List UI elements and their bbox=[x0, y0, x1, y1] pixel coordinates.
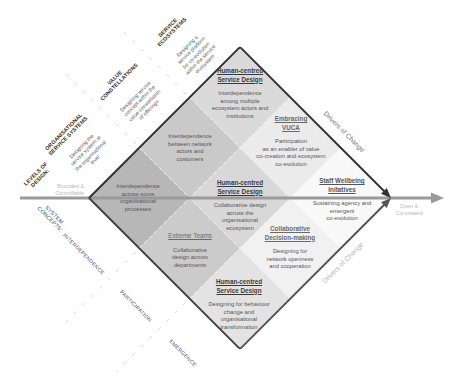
cell-body-line: ecosystem actors and bbox=[212, 105, 268, 113]
cell-body-line: among multiple bbox=[212, 98, 268, 106]
cell-body-line: Collaborative bbox=[168, 247, 212, 255]
cell-body-line: co-evolution bbox=[256, 161, 325, 169]
cell-body-line: Participation bbox=[256, 138, 325, 146]
cell-heading-line: Service Design bbox=[208, 287, 269, 296]
cell-body-line: Interdependence bbox=[168, 133, 212, 141]
cell-lower-right-text: Collaborative Decision-making Designing … bbox=[265, 225, 315, 271]
cell-upper-right-text: Embracing VUCA Participation as an enabl… bbox=[256, 115, 325, 168]
cell-heading: Human-centred Service Design bbox=[212, 67, 268, 84]
cell-body-line: between network bbox=[168, 141, 212, 149]
cell-body-line: change and bbox=[208, 309, 269, 317]
cell-body-line: Collaborative design bbox=[214, 202, 267, 210]
cell-heading-line: Extreme Teams bbox=[168, 232, 212, 241]
cell-body-line: Interdependence bbox=[116, 183, 160, 191]
cell-right-text: Staff Wellbeing Initatives Sustaining ag… bbox=[313, 177, 372, 223]
cell-heading: Staff Wellbeing Initatives bbox=[313, 177, 372, 194]
cell-body-line: emergent bbox=[313, 208, 372, 216]
cell-heading-line: Embracing bbox=[256, 115, 325, 124]
cell-body-line: processes bbox=[116, 206, 160, 214]
cell-heading: Extreme Teams bbox=[168, 232, 212, 241]
cell-heading-line: Human-centred bbox=[208, 278, 269, 287]
cell-body-line: organisational bbox=[208, 316, 269, 324]
cell-body-line: co-creation and ecosystem bbox=[256, 153, 325, 161]
cell-heading-line: Staff Wellbeing bbox=[313, 177, 372, 186]
cell-body-line: as an enabler of value bbox=[256, 146, 325, 154]
cell-body-line: ecosystem bbox=[214, 225, 267, 233]
cell-body-line: across some bbox=[116, 191, 160, 199]
cell-body-line: departments bbox=[168, 262, 212, 270]
cell-body-line: and cooperation bbox=[265, 263, 315, 271]
cell-body-line: design across bbox=[168, 254, 212, 262]
cell-heading: Human-centred Service Design bbox=[214, 179, 267, 196]
cell-body-line: across the bbox=[214, 210, 267, 218]
cell-heading: Human-centred Service Design bbox=[208, 278, 269, 295]
cell-heading-line: Human-centred bbox=[214, 179, 267, 188]
axis-left-label: Bounded & Controllable bbox=[55, 183, 84, 197]
cell-top-text: Human-centred Service Design Interdepend… bbox=[212, 67, 268, 120]
cell-center-text: Human-centred Service Design Collaborati… bbox=[214, 179, 267, 232]
cell-body-line: network openness bbox=[265, 256, 315, 264]
cell-heading: Embracing VUCA bbox=[256, 115, 325, 132]
cell-body-line: actors and bbox=[168, 148, 212, 156]
axis-left-label-line: Bounded & bbox=[55, 183, 84, 190]
cell-heading-line: Initatives bbox=[313, 186, 372, 195]
cell-body-line: Designing for behaviour bbox=[208, 301, 269, 309]
cell-body-line: Sustaining agency and bbox=[313, 200, 372, 208]
cell-body-line: co-evolution bbox=[313, 215, 372, 223]
cell-body-line: transformation bbox=[208, 324, 269, 332]
cell-left-text: Interdependence across some organisation… bbox=[116, 183, 160, 213]
cell-lower-left-text: Extreme Teams Collaborative design acros… bbox=[168, 232, 212, 269]
cell-heading: Collaborative Decision-making bbox=[265, 225, 315, 242]
cell-heading-line: Human-centred bbox=[212, 67, 268, 76]
cell-body-line: Interdependence bbox=[212, 90, 268, 98]
cell-upper-left-text: Interdependence between network actors a… bbox=[168, 133, 212, 163]
cell-heading-line: Decision-making bbox=[265, 234, 315, 243]
cell-heading-line: Service Design bbox=[212, 76, 268, 85]
axis-left-label-line: Controllable bbox=[55, 190, 84, 197]
cell-body-line: Designing for bbox=[265, 248, 315, 256]
cell-body-line: organisational bbox=[116, 198, 160, 206]
cell-heading-line: VUCA bbox=[256, 124, 325, 133]
axis-right-label: Open & Co-created bbox=[396, 203, 422, 217]
cell-heading-line: Collaborative bbox=[265, 225, 315, 234]
axis-right-label-line: Co-created bbox=[396, 210, 422, 217]
cell-heading-line: Service Design bbox=[214, 188, 267, 197]
cell-body-line: organisational bbox=[214, 217, 267, 225]
cell-body-line: customers bbox=[168, 156, 212, 164]
axis-right-label-line: Open & bbox=[396, 203, 422, 210]
cell-bottom-text: Human-centred Service Design Designing f… bbox=[208, 278, 269, 331]
